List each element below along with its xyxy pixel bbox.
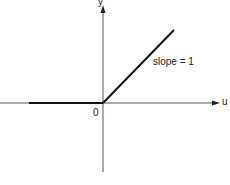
slope-annotation: slope = 1 [153,57,194,67]
x-axis-arrow-icon [212,101,220,106]
origin-label: 0 [93,108,99,118]
graph-canvas [0,0,230,185]
y-axis-label: y [98,0,103,7]
x-axis-label: u [222,97,228,107]
